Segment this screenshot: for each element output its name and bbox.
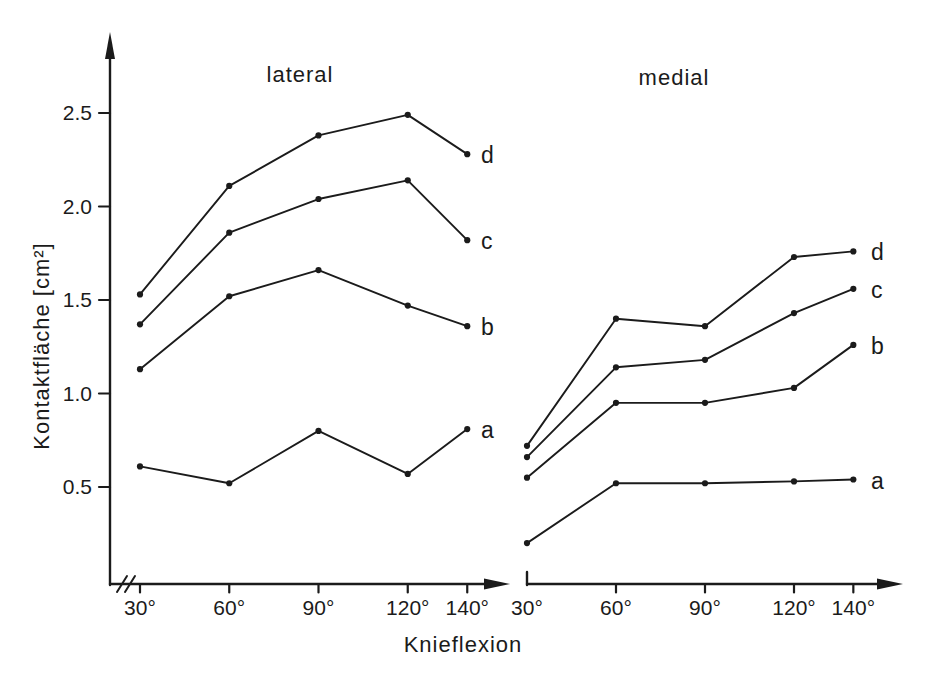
data-point <box>226 183 232 189</box>
y-tick-label: 1.0 <box>63 382 92 405</box>
y-tick-label: 0.5 <box>63 475 92 498</box>
x-tick-label: 140° <box>832 596 875 619</box>
y-axis-arrow-icon <box>105 32 115 59</box>
series-lateral-d: d <box>137 112 494 298</box>
data-point <box>464 151 470 157</box>
data-point <box>524 540 530 546</box>
panel-title-lateral: lateral <box>267 62 334 87</box>
data-point <box>464 323 470 329</box>
series-label-d: d <box>871 239 884 265</box>
series-lateral-c: c <box>137 177 493 327</box>
data-point <box>791 385 797 391</box>
series-line <box>140 270 467 369</box>
data-point <box>137 321 143 327</box>
x-tick-label: 60° <box>213 596 245 619</box>
data-point <box>315 196 321 202</box>
series-label-b: b <box>871 333 884 359</box>
x-tick-label: 90° <box>303 596 335 619</box>
data-point <box>524 443 530 449</box>
data-point <box>702 357 708 363</box>
y-tick-label: 2.0 <box>63 195 92 218</box>
data-point <box>226 293 232 299</box>
chart-svg: lateral medial Knieflexion Kontaktfläche… <box>0 0 939 680</box>
y-tick-label: 2.5 <box>63 101 92 124</box>
data-point <box>315 267 321 273</box>
series-medial-c: c <box>524 277 883 460</box>
data-point <box>226 230 232 236</box>
series-line <box>527 480 853 544</box>
data-point <box>137 291 143 297</box>
x-tick-label: 30° <box>511 596 543 619</box>
data-point <box>315 132 321 138</box>
x-tick-label: 90° <box>689 596 721 619</box>
series-line <box>140 429 467 483</box>
x-axis-title: Knieflexion <box>404 632 523 657</box>
data-point <box>613 364 619 370</box>
data-point <box>702 323 708 329</box>
data-point <box>524 475 530 481</box>
series-label-d: d <box>481 142 494 168</box>
data-point <box>405 303 411 309</box>
data-point <box>315 428 321 434</box>
data-point <box>405 177 411 183</box>
data-point <box>226 480 232 486</box>
data-point <box>405 471 411 477</box>
series-label-c: c <box>871 277 883 303</box>
x-tick-label: 60° <box>600 596 632 619</box>
data-point <box>791 478 797 484</box>
x-axis-arrow-icon <box>484 579 510 590</box>
x-tick-label: 120° <box>386 596 429 619</box>
data-point <box>702 400 708 406</box>
series-medial-d: d <box>524 239 884 449</box>
data-point <box>464 237 470 243</box>
series-lateral-a: a <box>137 417 494 486</box>
data-point <box>613 316 619 322</box>
data-point <box>137 463 143 469</box>
series-label-a: a <box>481 417 494 443</box>
y-axis-title: Kontaktfläche [cm²] <box>29 242 54 449</box>
data-point <box>850 476 856 482</box>
chart-generated-layer: 0.51.01.52.02.530°60°90°120°140°30°60°90… <box>63 32 903 619</box>
data-point <box>702 480 708 486</box>
series-label-c: c <box>481 228 493 254</box>
x-tick-label: 140° <box>446 596 489 619</box>
series-medial-a: a <box>524 468 884 547</box>
x-tick-label: 120° <box>772 596 815 619</box>
data-point <box>137 366 143 372</box>
data-point <box>850 248 856 254</box>
x-axis-arrow-icon <box>877 579 903 590</box>
data-point <box>791 254 797 260</box>
series-label-b: b <box>481 314 494 340</box>
series-line <box>140 180 467 324</box>
panel-title-medial: medial <box>639 65 710 90</box>
data-point <box>613 400 619 406</box>
data-point <box>850 286 856 292</box>
figure-canvas: lateral medial Knieflexion Kontaktfläche… <box>0 0 939 680</box>
series-line <box>527 251 853 445</box>
x-tick-label: 30° <box>124 596 156 619</box>
series-label-a: a <box>871 468 884 494</box>
data-point <box>464 426 470 432</box>
y-tick-label: 1.5 <box>63 288 92 311</box>
data-point <box>405 112 411 118</box>
data-point <box>850 342 856 348</box>
data-point <box>791 310 797 316</box>
data-point <box>524 454 530 460</box>
data-point <box>613 480 619 486</box>
series-line <box>527 289 853 457</box>
series-line <box>527 345 853 478</box>
series-lateral-b: b <box>137 267 494 372</box>
